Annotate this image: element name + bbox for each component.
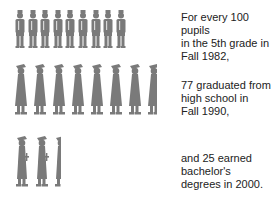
bachelor-caption: and 25 earned bachelor's degrees in 2000… (181, 152, 263, 191)
caption-line: in the 5th grade in (181, 37, 280, 50)
diploma-graduate-icon (54, 135, 61, 190)
pupils-row (0, 10, 160, 50)
graduate-gown-icon (128, 63, 142, 118)
schoolchild-icon (27, 10, 39, 50)
caption-line: degrees in 2000. (181, 178, 263, 191)
schoolchild-icon (14, 10, 26, 50)
diploma-graduate-icon (15, 135, 29, 190)
schoolchild-icon (64, 10, 76, 50)
high-school-caption: 77 graduated from high school in Fall 19… (181, 79, 271, 118)
caption-line: high school in (181, 92, 271, 105)
schoolchild-icon (115, 10, 127, 50)
graduate-gown-icon (109, 63, 123, 118)
graduate-gown-icon (90, 63, 104, 118)
bachelor-row (0, 135, 80, 190)
caption-line: Fall 1990, (181, 105, 271, 118)
caption-line: and 25 earned (181, 152, 263, 165)
caption-line: 77 graduated from (181, 79, 271, 92)
schoolchild-icon (102, 10, 114, 50)
schoolchild-icon (39, 10, 51, 50)
graduate-gown-icon (52, 63, 66, 118)
caption-line: Fall 1982, (181, 50, 280, 63)
schoolchild-icon (77, 10, 89, 50)
graduate-gown-icon (33, 63, 47, 118)
graduate-gown-icon (71, 63, 85, 118)
caption-line: bachelor's (181, 165, 263, 178)
schoolchild-icon (52, 10, 64, 50)
diploma-graduate-icon (35, 135, 49, 190)
graduate-gown-icon (14, 63, 28, 118)
high-school-row (0, 63, 160, 118)
schoolchild-icon (90, 10, 102, 50)
graduate-gown-icon (147, 63, 157, 118)
pupils-caption: For every 100 pupils in the 5th grade in… (181, 11, 280, 63)
caption-line: For every 100 pupils (181, 11, 280, 37)
